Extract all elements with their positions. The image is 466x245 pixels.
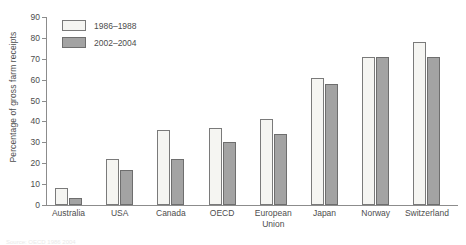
- y-axis-tick-label: 30: [19, 137, 40, 147]
- x-axis-labels: AustraliaUSACanadaOECDEuropean UnionJapa…: [46, 208, 458, 242]
- chart-footnote: Source: OECD 1986 2004: [6, 239, 76, 245]
- legend-swatch-icon: [62, 37, 86, 48]
- bar-group: [209, 17, 236, 205]
- bar: [157, 130, 170, 205]
- legend: 1986–1988 2002–2004: [62, 19, 137, 53]
- bar: [311, 78, 324, 205]
- legend-item-label: 1986–1988: [94, 21, 137, 31]
- y-axis-tick: [42, 142, 46, 143]
- y-axis-tick: [42, 17, 46, 18]
- y-axis-tick: [42, 205, 46, 206]
- y-axis-tick: [42, 38, 46, 39]
- y-axis-tick-label: 40: [19, 116, 40, 126]
- y-axis-tick: [42, 59, 46, 60]
- bar: [413, 42, 426, 205]
- y-axis-tick-label: 60: [19, 75, 40, 85]
- y-axis-tick-label: 20: [19, 158, 40, 168]
- legend-item: 1986–1988: [62, 19, 137, 32]
- bar: [55, 188, 68, 205]
- bar: [106, 159, 119, 205]
- legend-item: 2002–2004: [62, 36, 137, 49]
- bar: [223, 142, 236, 205]
- bar: [362, 57, 375, 205]
- y-axis-tick-label: 80: [19, 33, 40, 43]
- y-axis-line: [46, 17, 47, 205]
- bar: [120, 170, 133, 206]
- y-axis-title: Percentage of gross farm receipts: [8, 2, 18, 192]
- y-axis-tick: [42, 80, 46, 81]
- bar: [171, 159, 184, 205]
- y-axis-tick: [42, 184, 46, 185]
- y-axis-tick-label: 90: [19, 12, 40, 22]
- legend-item-label: 2002–2004: [94, 38, 137, 48]
- x-axis-tick-label: Switzerland: [387, 208, 466, 219]
- bar: [209, 128, 222, 205]
- bar-group: [260, 17, 287, 205]
- bar: [260, 119, 273, 205]
- bar: [69, 198, 82, 205]
- y-axis-tick: [42, 121, 46, 122]
- bar-group: [157, 17, 184, 205]
- y-axis-tick-label: 10: [19, 179, 40, 189]
- bar-group: [311, 17, 338, 205]
- legend-swatch-icon: [62, 20, 86, 31]
- bar: [325, 84, 338, 205]
- y-axis-tick-label: 50: [19, 96, 40, 106]
- bar: [376, 57, 389, 205]
- bar-chart: Percentage of gross farm receipts 010203…: [0, 0, 466, 245]
- bar-group: [413, 17, 440, 205]
- y-axis-tick-label: 70: [19, 54, 40, 64]
- y-axis-tick: [42, 163, 46, 164]
- bar: [274, 134, 287, 205]
- bar: [427, 57, 440, 205]
- bar-group: [362, 17, 389, 205]
- y-axis-tick: [42, 101, 46, 102]
- x-axis-line: [46, 205, 458, 206]
